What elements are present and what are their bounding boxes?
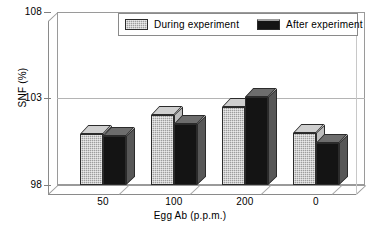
bar-front-face xyxy=(103,136,126,185)
bar-during-50 xyxy=(80,134,103,185)
legend-label-after-experiment: After experiment xyxy=(286,19,363,30)
y-axis-line xyxy=(48,21,49,194)
x-tick-label-0: 0 xyxy=(286,196,346,207)
x-axis-title: Egg Ab (p.p.m.) xyxy=(0,210,380,221)
bar-front-face xyxy=(80,134,103,185)
bar-after-0 xyxy=(316,143,339,185)
bar-during-100 xyxy=(151,115,174,185)
gridline-103 xyxy=(57,98,365,99)
bar-side-face xyxy=(339,135,348,185)
bar-front-face xyxy=(293,133,316,185)
bar-side-face xyxy=(126,128,135,185)
x-tick-label-50: 50 xyxy=(73,196,133,207)
x-tick-label-200: 200 xyxy=(215,196,275,207)
y-tick-mark-103 xyxy=(44,98,51,99)
bar-front-face xyxy=(151,115,174,185)
bar-chart: SNF (%) 108 103 98 xyxy=(0,0,380,230)
depth-edge-bottom-right xyxy=(356,185,366,195)
legend-label-during-experiment: During experiment xyxy=(154,19,239,30)
plot-right-edge xyxy=(356,21,357,194)
y-tick-label-98: 98 xyxy=(8,179,42,190)
x-tick-label-100: 100 xyxy=(144,196,204,207)
bar-after-200 xyxy=(245,97,268,185)
bar-front-face xyxy=(222,107,245,185)
x-axis-line xyxy=(48,194,356,195)
y-tick-label-108: 108 xyxy=(8,6,42,17)
bar-side-face xyxy=(197,116,206,185)
bar-after-100 xyxy=(174,124,197,185)
bar-during-200 xyxy=(222,107,245,185)
y-tick-label-103: 103 xyxy=(8,92,42,103)
bar-front-face xyxy=(245,97,268,185)
legend-entry-during-experiment: During experiment xyxy=(125,14,239,35)
bar-side-face xyxy=(268,89,277,185)
bar-during-0 xyxy=(293,133,316,185)
legend-swatch-during-experiment xyxy=(125,19,148,30)
chart-legend: During experiment After experiment xyxy=(118,13,358,36)
floor-back-edge xyxy=(57,185,365,186)
y-axis-title: SNF (%) xyxy=(17,43,28,133)
legend-swatch-after-experiment xyxy=(257,19,280,30)
bar-after-50 xyxy=(103,136,126,185)
y-tick-mark-98 xyxy=(44,185,51,186)
y-tick-mark-108 xyxy=(44,12,51,13)
legend-entry-after-experiment: After experiment xyxy=(257,14,363,35)
bar-front-face xyxy=(174,124,197,185)
bar-front-face xyxy=(316,143,339,185)
